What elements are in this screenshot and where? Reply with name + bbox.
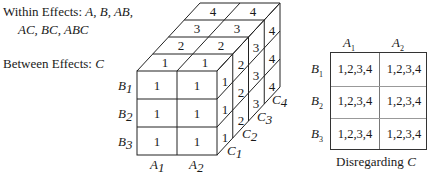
top-cell: 4 (250, 4, 257, 19)
table-row-header-b2: B2 (311, 93, 323, 111)
depth-label-c3: C3 (257, 109, 273, 127)
top-cell: 3 (234, 21, 241, 36)
front-cell: 1 (154, 106, 161, 121)
col-label-a2: A2 (188, 157, 204, 174)
table-cell: 1,2,3,4 (380, 118, 428, 151)
table-cell: 1,2,3,4 (380, 53, 428, 86)
side-cell: 3 (253, 40, 260, 55)
depth-label-c1: C1 (227, 143, 242, 161)
side-cell: 1 (222, 102, 229, 117)
table-caption-variable: C (407, 154, 416, 169)
depth-label-c4: C4 (272, 92, 288, 110)
table-col-header-a2: A2 (392, 35, 404, 53)
disregarding-c-table: 1,2,3,4 1,2,3,4 1,2,3,4 1,2,3,4 1,2,3,4 … (330, 52, 427, 150)
front-cell: 1 (194, 78, 201, 93)
top-cell: 2 (178, 38, 185, 53)
side-cell: 3 (253, 68, 260, 83)
table-cell: 1,2,3,4 (331, 118, 379, 151)
front-cell: 1 (194, 134, 201, 149)
top-cell: 2 (218, 38, 225, 53)
side-cell: 2 (238, 85, 245, 100)
top-cell: 3 (194, 21, 201, 36)
side-cell: 1 (222, 74, 229, 89)
row-label-b3: B3 (118, 134, 133, 152)
row-label-b2: B2 (118, 106, 133, 124)
row-label-b1: B1 (118, 78, 132, 96)
table-caption-text: Disregarding (336, 154, 404, 169)
side-cell: 4 (269, 23, 276, 38)
table-row-header-b1: B1 (311, 61, 323, 79)
top-cell: 1 (202, 55, 209, 70)
top-cell: 1 (162, 55, 169, 70)
table-cell: 1,2,3,4 (331, 86, 379, 119)
col-label-a1: A1 (149, 157, 164, 174)
front-cell: 1 (154, 78, 161, 93)
side-cell: 4 (269, 51, 276, 66)
side-cell: 2 (238, 57, 245, 72)
depth-label-c2: C2 (242, 126, 258, 144)
table-caption: Disregarding C (336, 155, 416, 169)
top-cell: 4 (210, 4, 217, 19)
table-row-header-b3: B3 (311, 126, 323, 144)
front-cell: 1 (194, 106, 201, 121)
front-cell: 1 (154, 134, 161, 149)
table-cell: 1,2,3,4 (380, 86, 428, 119)
table-col-header-a1: A1 (343, 35, 355, 53)
table-cell: 1,2,3,4 (331, 53, 379, 86)
